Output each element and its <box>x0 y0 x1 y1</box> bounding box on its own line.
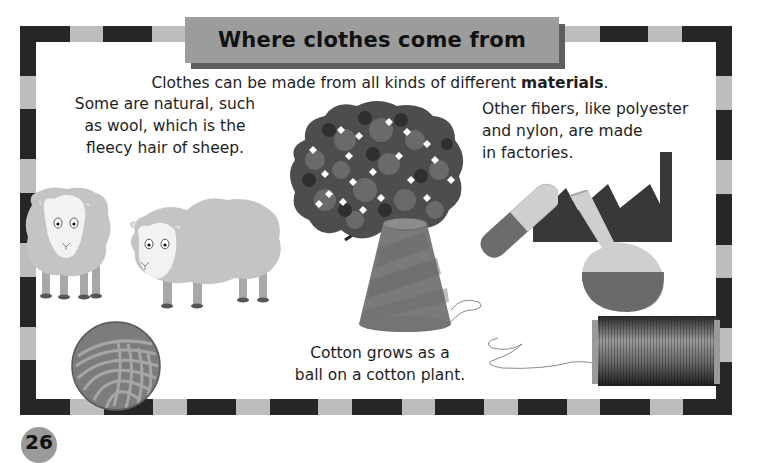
thread-spool-icon <box>482 312 722 394</box>
text-line: and nylon, are made <box>482 120 722 142</box>
border-segment <box>402 399 435 415</box>
border-segment <box>716 160 732 194</box>
border-segment <box>20 76 36 109</box>
border-segment <box>70 26 103 42</box>
border-segment <box>648 26 682 42</box>
border-segment <box>187 399 236 415</box>
border-segment <box>270 399 318 415</box>
border-segment <box>352 399 402 415</box>
text-line: Other fibers, like polyester <box>482 98 722 120</box>
border-segment <box>600 399 650 415</box>
border-segment <box>716 194 732 245</box>
test-tube-icon <box>478 178 558 270</box>
border-segment <box>518 399 567 415</box>
yarn-ball-icon <box>70 320 162 412</box>
thread-cone-icon <box>355 218 485 340</box>
border-segment <box>152 26 187 42</box>
border-segment <box>683 399 732 415</box>
text-line: fleecy hair of sheep. <box>50 137 280 159</box>
intro-text-suffix: . <box>604 74 609 92</box>
page-title: Where clothes come from <box>218 28 526 52</box>
border-segment <box>682 26 732 42</box>
intro-text-bold: materials <box>521 74 604 92</box>
text-line: as wool, which is the <box>50 115 280 137</box>
title-banner: Where clothes come from <box>185 17 559 63</box>
cotton-text: Cotton grows as a ball on a cotton plant… <box>285 342 475 386</box>
border-segment <box>20 42 36 76</box>
border-segment <box>563 26 600 42</box>
border-segment <box>20 327 36 360</box>
text-line: Cotton grows as a <box>285 342 475 364</box>
border-segment <box>567 399 600 415</box>
page-number: 26 <box>25 430 53 463</box>
intro-text: Clothes can be made from all kinds of di… <box>150 72 610 94</box>
sheep-icon <box>22 185 114 300</box>
text-line: ball on a cotton plant. <box>285 364 475 386</box>
sheep-icon <box>127 192 285 312</box>
border-segment <box>318 399 352 415</box>
intro-text-prefix: Clothes can be made from all kinds of di… <box>151 74 521 92</box>
border-segment <box>20 109 36 159</box>
border-segment <box>716 42 732 76</box>
border-segment <box>103 26 152 42</box>
flask-icon <box>566 190 674 315</box>
border-segment <box>20 399 70 415</box>
border-segment <box>600 26 648 42</box>
text-line: Some are natural, such <box>50 93 280 115</box>
border-segment <box>20 26 70 42</box>
border-segment <box>435 399 484 415</box>
border-segment <box>484 399 518 415</box>
border-segment <box>716 245 732 278</box>
border-segment <box>650 399 683 415</box>
border-segment <box>236 399 270 415</box>
natural-fibers-text: Some are natural, such as wool, which is… <box>50 93 280 159</box>
page-number-badge: 26 <box>21 427 57 463</box>
